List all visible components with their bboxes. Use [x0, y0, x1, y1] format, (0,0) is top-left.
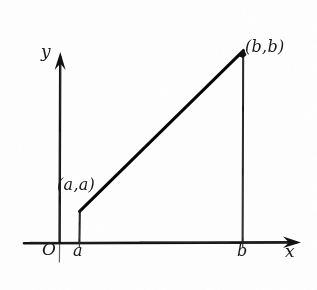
y-axis-label: y	[41, 43, 51, 60]
x-tick-label-b: b	[237, 243, 247, 259]
axes-group	[24, 52, 301, 262]
triangle-group	[79, 49, 246, 244]
segment-vertical-at-b-texture	[243, 58, 244, 239]
origin-label: O	[42, 241, 56, 258]
point-label-lower: (a,a)	[57, 177, 95, 193]
x-axis-label: x	[285, 243, 295, 260]
point-label-upper: (b,b)	[245, 39, 285, 55]
segment-hypotenuse-highlight	[82, 53, 242, 210]
x-tick-label-a: a	[73, 243, 83, 259]
figure-canvas: y x O a b (a,a) (b,b)	[0, 0, 317, 290]
